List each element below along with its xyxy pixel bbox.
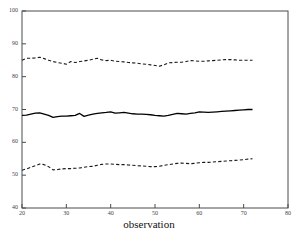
x-tick-label: 50 [145, 210, 165, 216]
x-tick-label: 70 [234, 210, 254, 216]
x-tick-label: 20 [12, 210, 32, 216]
series-line [22, 57, 253, 66]
chart-figure: 405060708090100 20304050607080 observati… [0, 0, 298, 235]
series-line [22, 159, 253, 170]
x-tick-label: 30 [56, 210, 76, 216]
y-tick-label: 100 [0, 7, 18, 13]
x-axis-ticks [22, 204, 288, 208]
y-axis-ticks [22, 11, 26, 208]
y-tick-label: 50 [0, 171, 18, 177]
y-tick-label: 90 [0, 40, 18, 46]
y-tick-label: 70 [0, 106, 18, 112]
x-tick-label: 40 [101, 210, 121, 216]
x-tick-label: 80 [278, 210, 298, 216]
series-line [22, 110, 253, 118]
x-axis-title: observation [0, 218, 298, 230]
x-tick-label: 60 [189, 210, 209, 216]
data-series-group [22, 57, 253, 170]
plot-canvas [0, 0, 298, 235]
y-tick-label: 80 [0, 73, 18, 79]
y-tick-label: 60 [0, 138, 18, 144]
